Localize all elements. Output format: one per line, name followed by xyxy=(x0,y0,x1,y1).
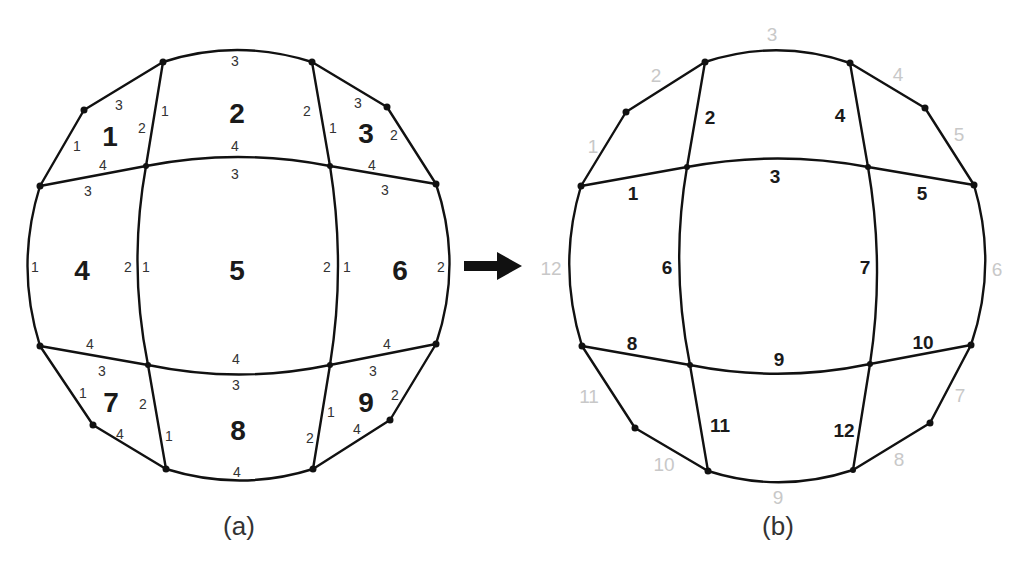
element-label: 3 xyxy=(358,118,374,149)
local-edge-label: 4 xyxy=(233,464,241,480)
local-edge-label: 1 xyxy=(329,120,337,136)
panel-b-mesh: 123456789101112 123456789101112 (b) xyxy=(540,24,1002,542)
inner-edge-label: 9 xyxy=(774,349,785,370)
inner-edge xyxy=(312,62,330,166)
local-edge-label: 3 xyxy=(354,95,362,111)
inner-edge-label: 5 xyxy=(917,183,928,204)
local-edge-label: 3 xyxy=(381,182,389,198)
boundary-edge-label: 5 xyxy=(954,124,965,145)
element-label: 7 xyxy=(103,387,119,418)
inner-edge xyxy=(148,365,166,469)
transform-arrow-icon xyxy=(464,252,522,280)
local-edge-label: 2 xyxy=(323,259,331,275)
local-edge-label: 2 xyxy=(391,387,399,403)
local-edge-label: 2 xyxy=(303,103,311,119)
boundary-edge xyxy=(708,470,853,482)
local-edge-label: 1 xyxy=(165,428,173,444)
local-edge-label: 2 xyxy=(124,259,132,275)
element-label: 9 xyxy=(358,387,374,418)
local-edge-label: 4 xyxy=(99,157,107,173)
inner-edge xyxy=(40,166,146,186)
local-edge-label: 3 xyxy=(115,97,123,113)
boundary-edge-label: 4 xyxy=(893,64,904,85)
inner-edge-label: 11 xyxy=(710,415,731,436)
local-edge-label: 3 xyxy=(98,363,106,379)
boundary-edge-label: 6 xyxy=(992,259,1003,280)
local-edge-label: 3 xyxy=(231,166,239,182)
inner-edge-label: 1 xyxy=(628,183,639,204)
panel-a-caption: (a) xyxy=(223,511,255,541)
boundary-edge-label: 12 xyxy=(540,258,561,279)
local-edge-label: 1 xyxy=(343,259,351,275)
inner-edge-label: 8 xyxy=(627,333,638,354)
inner-edge xyxy=(853,364,870,470)
inner-edge xyxy=(40,346,148,365)
inner-edge-label: 4 xyxy=(835,105,846,126)
element-label: 5 xyxy=(229,255,245,286)
inner-edge xyxy=(330,166,338,365)
figure-canvas: 123456789 331214213243433121212444333121… xyxy=(0,0,1018,569)
boundary-edge xyxy=(705,50,850,63)
boundary-edge-label: 3 xyxy=(767,24,778,45)
inner-edge-label: 7 xyxy=(860,257,871,278)
boundary-edge-label: 1 xyxy=(588,136,599,157)
local-edge-label: 3 xyxy=(231,53,239,69)
panel-a-mesh: 123456789 331214213243433121212444333121… xyxy=(28,50,450,541)
inner-edge-label: 10 xyxy=(912,332,933,353)
local-edge-label: 3 xyxy=(369,363,377,379)
panel-b-caption: (b) xyxy=(762,511,794,541)
local-edge-label: 4 xyxy=(383,336,391,352)
global-boundary-edge-labels: 123456789101112 xyxy=(540,24,1002,508)
inner-edge-label: 3 xyxy=(770,166,781,187)
boundary-edge-label: 10 xyxy=(653,454,674,475)
boundary-edge-label: 9 xyxy=(773,487,784,508)
local-edge-label: 2 xyxy=(139,396,147,412)
local-edge-label: 4 xyxy=(116,426,124,442)
local-edge-label: 4 xyxy=(368,157,376,173)
local-edge-label: 1 xyxy=(161,103,169,119)
local-edge-label: 2 xyxy=(437,259,445,275)
global-inner-edge-labels: 123456789101112 xyxy=(627,105,934,441)
mesh-nodes xyxy=(578,59,978,475)
inner-edge xyxy=(146,157,330,166)
local-edge-label: 1 xyxy=(79,385,87,401)
local-edge-label: 4 xyxy=(86,336,94,352)
inner-edge-label: 12 xyxy=(833,420,854,441)
boundary-edge-label: 7 xyxy=(955,385,966,406)
boundary-edge xyxy=(971,185,985,345)
element-label: 8 xyxy=(230,415,246,446)
local-edge-label: 1 xyxy=(31,259,39,275)
inner-edge-label: 6 xyxy=(662,257,673,278)
local-edge-label: 1 xyxy=(73,138,81,154)
local-edge-label: 2 xyxy=(390,127,398,143)
inner-edge xyxy=(850,63,868,167)
local-edge-label: 2 xyxy=(138,120,146,136)
local-edge-label: 4 xyxy=(232,351,240,367)
element-label: 1 xyxy=(102,121,118,152)
local-edge-label: 4 xyxy=(231,138,239,154)
boundary-edge-label: 2 xyxy=(651,65,662,86)
local-edge-label: 2 xyxy=(306,430,314,446)
local-edge-label: 1 xyxy=(142,259,150,275)
element-label: 2 xyxy=(229,98,245,129)
boundary-edge xyxy=(569,186,582,346)
boundary-edge-label: 11 xyxy=(579,386,599,407)
inner-edge xyxy=(679,167,690,365)
element-label: 4 xyxy=(74,255,90,286)
local-edge-label: 3 xyxy=(232,377,240,393)
local-edge-label: 3 xyxy=(84,183,92,199)
element-label: 6 xyxy=(392,255,408,286)
boundary-edge-label: 8 xyxy=(894,449,905,470)
local-edge-label: 4 xyxy=(353,421,361,437)
inner-edge xyxy=(687,62,705,167)
inner-edge-label: 2 xyxy=(705,107,716,128)
local-edge-label: 1 xyxy=(327,404,335,420)
inner-edge xyxy=(690,365,708,471)
